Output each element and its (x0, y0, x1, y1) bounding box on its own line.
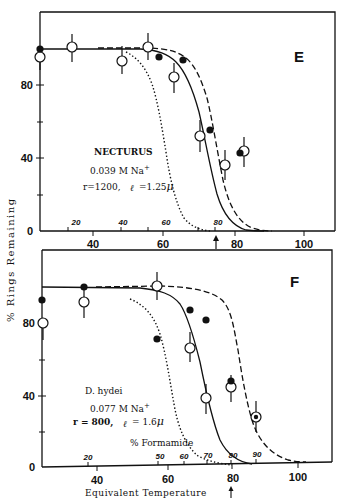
panel-e-y-tick-80: 80 (21, 79, 33, 91)
panel-e-y-tick-0: 0 (27, 225, 33, 237)
panel-e-r-label: r=1200, (83, 182, 121, 192)
panel-f-formamide-tick-90: 90 (253, 450, 262, 459)
panel-e-letter: E (294, 48, 304, 65)
panel-f-y-tick-40: 40 (23, 390, 35, 402)
panel-e-x-tick-80: 80 (231, 238, 243, 250)
panel-f: 80 40 0 40 60 80 100 20 50 60 70 80 90 %… (23, 250, 332, 498)
panel-e-formamide-tick-20: 20 (71, 218, 81, 227)
panel-e-formamide-tick-40: 40 (118, 218, 128, 227)
panel-e-ell-symbol: ℓ (130, 183, 134, 193)
x-axis-label: Equivalent Temperature (85, 488, 207, 498)
panel-e-y-tick-40: 40 (21, 152, 33, 164)
panel-e-frame (40, 12, 335, 231)
figure: 80 40 0 40 60 80 100 20 40 60 80 E (0, 0, 343, 503)
panel-f-filled-points (38, 283, 258, 419)
panel-f-letter: F (290, 273, 299, 290)
panel-e-x-tick-40: 40 (87, 238, 99, 250)
panel-f-x-tick-80: 80 (227, 472, 239, 484)
panel-e-salt-label: 0.039 M Na+ (90, 164, 150, 176)
panel-f-y-tick-80: 80 (23, 317, 35, 329)
panel-f-formamide-tick-60: 60 (180, 452, 189, 461)
panel-e-formamide-tick-80: 80 (214, 218, 223, 227)
panel-f-r-label: r = 800, (73, 417, 113, 428)
panel-e-x-tick-60: 60 (157, 238, 169, 250)
panel-f-dashed-curve (96, 286, 306, 462)
panel-e-species-label: NECTURUS (94, 147, 153, 157)
panel-f-x-tick-60: 60 (162, 473, 174, 485)
panel-f-x-axis (42, 462, 332, 467)
panel-f-frame (42, 250, 332, 462)
panel-e: 80 40 0 40 60 80 100 20 40 60 80 E (21, 12, 335, 250)
panel-f-x-tick-100: 100 (289, 471, 307, 483)
panel-f-x-tick-40: 40 (91, 474, 103, 486)
panel-f-ell-symbol: ℓ (123, 419, 127, 429)
panel-f-salt-label: 0.077 M Na+ (90, 402, 150, 414)
panel-f-formamide-tick-50: 50 (156, 452, 165, 461)
panel-e-filled-points (36, 45, 243, 156)
panel-f-y-tick-0: 0 (29, 461, 35, 473)
panel-e-formamide-tick-60: 60 (162, 218, 171, 227)
panel-f-ell-value: = 1.6μ (132, 415, 164, 428)
y-axis-label: % Rings Remaining (5, 197, 16, 322)
panel-e-ell-value: =1.25μ (139, 180, 174, 193)
panel-f-tm-arrow-icon (229, 486, 234, 498)
panel-f-species-label: D. hydei (85, 386, 123, 396)
panel-e-x-tick-100: 100 (295, 238, 313, 250)
panel-f-formamide-tick-20: 20 (83, 453, 93, 462)
panel-e-tm-arrow-icon (213, 235, 219, 249)
panel-f-formamide-axis-label: % Formamide (130, 438, 193, 448)
panel-e-open-points (35, 33, 249, 180)
